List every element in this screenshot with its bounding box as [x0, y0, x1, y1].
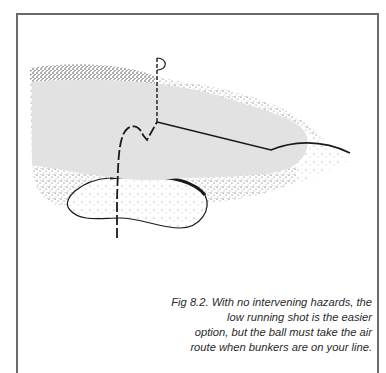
caption-line-4: route when bunkers are on your line.: [112, 340, 372, 355]
caption-line-2: low running shot is the easier: [112, 310, 372, 325]
caption-line-1: Fig 8.2. With no intervening hazards, th…: [112, 295, 372, 310]
figure-caption: Fig 8.2. With no intervening hazards, th…: [112, 295, 372, 355]
caption-line-3: option, but the ball must take the air: [112, 325, 372, 340]
bunker: [67, 176, 207, 228]
putting-green: [32, 80, 308, 180]
